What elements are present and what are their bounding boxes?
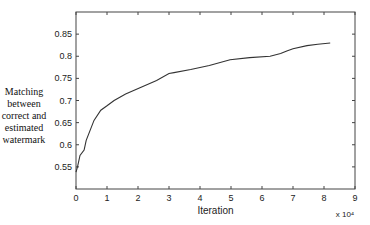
y-tick-label: 0.6 (59, 140, 72, 150)
data-line (76, 43, 330, 172)
y-axis-label-line: correct and (0, 110, 48, 122)
x-tick-label: 3 (166, 193, 171, 203)
y-tick-label: 0.55 (54, 162, 72, 172)
line-chart: 01234567890.550.60.650.70.750.80.85Itera… (0, 0, 370, 225)
x-tick-label: 0 (73, 193, 78, 203)
x-axis-multiplier: x 10⁴ (336, 210, 355, 219)
y-tick-label: 0.7 (59, 96, 72, 106)
x-tick-label: 5 (228, 193, 233, 203)
y-tick-label: 0.65 (54, 118, 72, 128)
axes-box (76, 12, 355, 189)
y-axis-label-line: Matching (0, 86, 48, 98)
y-axis-label-line: watermark (0, 134, 48, 146)
x-axis-label: Iteration (197, 205, 233, 216)
y-tick-label: 0.85 (54, 29, 72, 39)
x-tick-label: 1 (104, 193, 109, 203)
y-tick-label: 0.75 (54, 73, 72, 83)
x-tick-label: 6 (259, 193, 264, 203)
y-axis-label-line: estimated (0, 122, 48, 134)
x-tick-label: 9 (352, 193, 357, 203)
x-tick-label: 4 (197, 193, 202, 203)
x-tick-label: 2 (135, 193, 140, 203)
y-tick-label: 0.8 (59, 51, 72, 61)
y-axis-label: Matching between correct and estimated w… (0, 86, 48, 146)
y-axis-label-line: between (0, 98, 48, 110)
x-tick-label: 8 (321, 193, 326, 203)
x-tick-label: 7 (290, 193, 295, 203)
plot-area: 01234567890.550.60.650.70.750.80.85Itera… (54, 12, 357, 219)
